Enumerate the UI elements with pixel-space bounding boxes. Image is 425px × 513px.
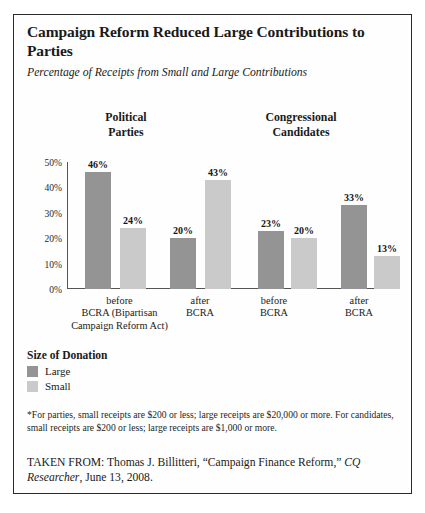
bar-value-label: 33% bbox=[344, 192, 364, 203]
footnote-text: *For parties, small receipts are $200 or… bbox=[27, 409, 399, 435]
group-header-line2: Parties bbox=[66, 125, 186, 140]
bar-small-group3: 13% bbox=[374, 240, 400, 289]
y-axis-tick-label: 40% bbox=[44, 182, 62, 193]
legend-items: LargeSmall bbox=[27, 365, 108, 392]
bar-value-label: 20% bbox=[294, 225, 314, 236]
legend-item-label: Small bbox=[45, 380, 71, 392]
y-axis-tick-label: 50% bbox=[44, 157, 62, 168]
bar-value-label: 20% bbox=[173, 225, 193, 236]
source-suffix: , June 13, 2008. bbox=[79, 471, 152, 484]
group-header-congressional-candidates: Congressional Candidates bbox=[236, 110, 366, 139]
x-tick-label-2: beforeBCRA bbox=[226, 295, 322, 320]
group-header-line1: Political bbox=[66, 110, 186, 125]
source-prefix: TAKEN FROM: Thomas J. Billitteri, “Campa… bbox=[27, 456, 344, 469]
legend-swatch-icon bbox=[27, 381, 38, 392]
x-tick-label-3: afterBCRA bbox=[314, 295, 404, 320]
bar-large-group0: 46% bbox=[85, 156, 111, 289]
bar-rect bbox=[205, 180, 231, 289]
bar-value-label: 46% bbox=[88, 159, 108, 170]
bar-large-group3: 33% bbox=[341, 189, 367, 289]
legend-item-small: Small bbox=[27, 380, 108, 392]
bar-rect bbox=[85, 172, 111, 289]
bar-rect bbox=[258, 231, 284, 289]
bar-small-group1: 43% bbox=[205, 164, 231, 289]
chart-subtitle: Percentage of Receipts from Small and La… bbox=[27, 66, 387, 80]
x-tick-label-line: BCRA bbox=[314, 307, 404, 319]
bar-small-group0: 24% bbox=[120, 212, 146, 289]
bar-value-label: 43% bbox=[208, 167, 228, 178]
legend-item-label: Large bbox=[45, 365, 70, 377]
bar-rect bbox=[374, 256, 400, 289]
bar-large-group2: 23% bbox=[258, 215, 284, 289]
bar-rect bbox=[291, 238, 317, 289]
legend-title: Size of Donation bbox=[27, 349, 108, 361]
chart-title: Campaign Reform Reduced Large Contributi… bbox=[27, 23, 377, 61]
bar-value-label: 23% bbox=[261, 218, 281, 229]
bar-rect bbox=[170, 238, 196, 289]
legend-swatch-icon bbox=[27, 366, 38, 377]
y-axis-tick-labels: 0%10%20%30%40%50% bbox=[32, 159, 62, 289]
bar-rect bbox=[120, 228, 146, 289]
group-header-political-parties: Political Parties bbox=[66, 110, 186, 139]
figure-panel: Campaign Reform Reduced Large Contributi… bbox=[13, 14, 412, 494]
y-axis-tick-label: 10% bbox=[44, 258, 62, 269]
legend-item-large: Large bbox=[27, 365, 108, 377]
x-tick-label-line: BCRA bbox=[226, 307, 322, 319]
group-header-line1: Congressional bbox=[236, 110, 366, 125]
bar-value-label: 13% bbox=[377, 243, 397, 254]
x-tick-label-line: after bbox=[314, 295, 404, 307]
source-attribution: TAKEN FROM: Thomas J. Billitteri, “Campa… bbox=[27, 455, 399, 485]
bar-rect bbox=[341, 205, 367, 289]
group-header-line2: Candidates bbox=[236, 125, 366, 140]
bar-small-group2: 20% bbox=[291, 222, 317, 289]
x-tick-label-line: before bbox=[226, 295, 322, 307]
y-axis-tick-label: 30% bbox=[44, 207, 62, 218]
bar-chart-plot-area: 0%10%20%30%40%50% 46%24%20%43%23%20%33%1… bbox=[32, 159, 400, 291]
bar-series-container: 46%24%20%43%23%20%33%13% bbox=[68, 159, 400, 289]
bar-large-group1: 20% bbox=[170, 222, 196, 289]
y-axis-tick-label: 20% bbox=[44, 233, 62, 244]
bar-value-label: 24% bbox=[123, 215, 143, 226]
chart-legend: Size of Donation LargeSmall bbox=[27, 349, 108, 392]
x-tick-label-line: Campaign Reform Act) bbox=[32, 320, 207, 332]
y-axis-tick-label: 0% bbox=[49, 284, 62, 295]
